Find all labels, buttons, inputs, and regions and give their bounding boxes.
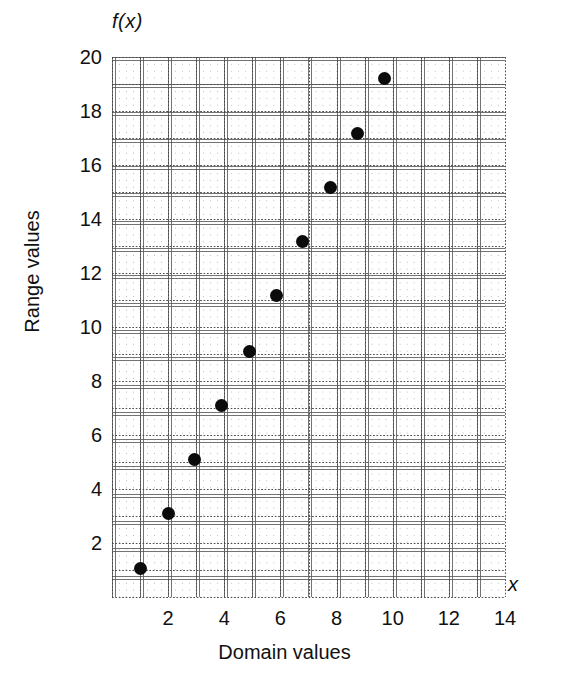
data-point [215, 399, 228, 412]
x-tick-label: 8 [315, 608, 359, 628]
y-tick-label: 4 [58, 479, 102, 499]
y-tick-label: 14 [58, 209, 102, 229]
data-point [296, 235, 309, 248]
data-point [243, 345, 256, 358]
y-tick-label: 18 [58, 101, 102, 121]
y-axis-symbol-label: f(x) [112, 10, 143, 33]
plot-area [112, 57, 505, 597]
y-tick-label: 16 [58, 155, 102, 175]
y-tick-label: 20 [58, 47, 102, 67]
data-point [351, 127, 364, 140]
gridline-horizontal [112, 597, 505, 598]
x-tick-label: 14 [483, 608, 527, 628]
x-tick-label: 10 [371, 608, 415, 628]
x-tick-label: 12 [427, 608, 471, 628]
x-tick-label: 4 [202, 608, 246, 628]
y-axis-title: Range values [21, 172, 44, 372]
y-tick-label: 8 [58, 371, 102, 391]
scatter-plot-figure: f(x) 2468101214161820 2468101214 x Domai… [0, 0, 569, 687]
x-tick-label: 6 [258, 608, 302, 628]
y-tick-label: 12 [58, 263, 102, 283]
x-axis-symbol-label: x [508, 573, 518, 596]
x-axis-title: Domain values [0, 641, 569, 664]
data-point [270, 289, 283, 302]
data-point [378, 72, 391, 85]
x-tick-label: 2 [146, 608, 190, 628]
y-tick-label: 6 [58, 425, 102, 445]
y-tick-label: 10 [58, 317, 102, 337]
y-tick-label: 2 [58, 533, 102, 553]
data-point [134, 562, 147, 575]
data-point [188, 453, 201, 466]
data-point [162, 507, 175, 520]
data-point [324, 181, 337, 194]
data-points-layer [112, 57, 505, 597]
gridline-vertical [505, 57, 506, 597]
